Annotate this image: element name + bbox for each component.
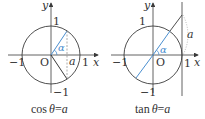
- angle-arc: [157, 50, 159, 55]
- point-a-label: a: [69, 55, 76, 68]
- height-a-label: a: [187, 28, 194, 41]
- x-tick-pos: 1: [82, 56, 89, 69]
- angle-arc: [54, 50, 57, 55]
- y-tick-top: 1: [53, 15, 60, 28]
- line-through-origin-blue: [136, 55, 153, 78]
- x-tick-neg: −1: [112, 56, 128, 69]
- x-axis-label: x: [194, 56, 201, 69]
- caption-tan: tanθ=a: [135, 102, 170, 116]
- origin-label: O: [40, 56, 49, 69]
- angle-label: α: [160, 44, 167, 55]
- x-tick-pos: 1: [184, 57, 191, 70]
- cosine-diagram: y x 1 −1 −1 1 O a α cosθ=a: [8, 0, 100, 116]
- x-tick-neg: −1: [9, 56, 25, 69]
- y-axis-label: y: [143, 0, 151, 12]
- line-to-tangent: [170, 15, 182, 31]
- caption-cos: cosθ=a: [31, 102, 68, 116]
- x-axis-label: x: [93, 56, 100, 69]
- unit-circle-diagrams: y x 1 −1 −1 1 O a α cosθ=a y x 1 −1 −1 1…: [0, 0, 205, 119]
- angle-label: α: [58, 42, 65, 53]
- y-tick-top: 1: [139, 15, 146, 28]
- origin-label: O: [156, 56, 165, 69]
- y-axis-label: y: [41, 0, 49, 12]
- tangent-diagram: y x 1 −1 −1 1 O a α tanθ=a: [111, 0, 201, 116]
- y-tick-bottom: −1: [53, 86, 69, 99]
- radius-lower: [51, 55, 67, 79]
- y-tick-bottom: −1: [140, 86, 156, 99]
